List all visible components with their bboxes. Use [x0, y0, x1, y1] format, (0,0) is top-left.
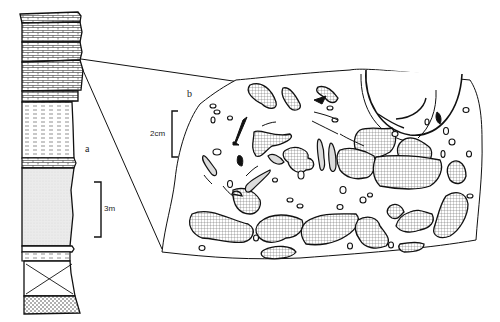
- detail-block: [162, 69, 482, 259]
- bed-shale: [22, 102, 74, 158]
- bed-dotted: [24, 296, 80, 314]
- scale-bar-3m: [94, 182, 101, 237]
- panel-label-a: a: [85, 143, 89, 154]
- stratigraphic-column: [20, 12, 83, 314]
- bed-thin-shale: [22, 252, 70, 261]
- bed-limestone-4: [22, 60, 83, 91]
- bed-stippled: [22, 168, 74, 246]
- connector-bottom: [82, 68, 162, 249]
- bed-limestone-2: [22, 22, 82, 42]
- connector-top: [81, 59, 240, 82]
- scale-bar-2cm: [172, 111, 178, 157]
- diagram-canvas: [0, 0, 500, 322]
- bed-limestone-5: [22, 91, 78, 102]
- bed-limestone-1: [20, 12, 81, 23]
- panel-label-b: b: [187, 88, 192, 99]
- scale-label-2cm: 2cm: [150, 129, 165, 138]
- bed-limestone-3: [22, 42, 82, 62]
- scale-label-3m: 3m: [104, 204, 115, 213]
